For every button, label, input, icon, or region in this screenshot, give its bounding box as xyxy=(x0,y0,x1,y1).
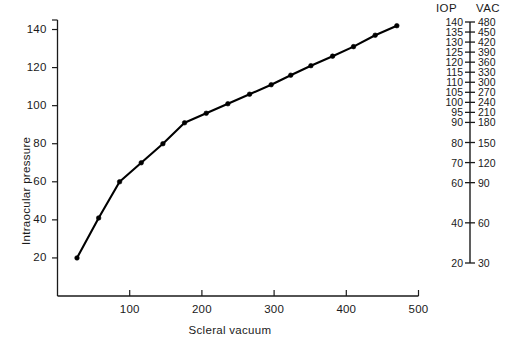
nomogram-iop-value: 40 xyxy=(430,217,463,229)
data-point-marker xyxy=(269,82,274,87)
data-point-marker xyxy=(395,23,400,28)
nomogram-vac-value: 150 xyxy=(478,137,512,149)
nomogram-iop-value: 60 xyxy=(430,177,463,189)
nomogram-iop-value: 90 xyxy=(430,116,463,128)
nomogram-header-iop: IOP xyxy=(436,2,457,14)
x-tick-label: 400 xyxy=(326,303,366,315)
data-point-marker xyxy=(96,216,101,221)
data-point-marker xyxy=(161,141,166,146)
nomogram-row: 4060 xyxy=(430,217,525,229)
plot-area: 20406080100120140 100200300400500 Intrao… xyxy=(0,0,430,347)
x-tick-label: 100 xyxy=(110,303,150,315)
y-tick-label: 20 xyxy=(13,251,47,263)
data-point-marker xyxy=(351,44,356,49)
data-point-marker xyxy=(139,160,144,165)
x-tick-label: 200 xyxy=(182,303,222,315)
data-line xyxy=(77,26,397,258)
data-point-marker xyxy=(330,54,335,59)
data-point-marker xyxy=(75,256,80,261)
data-point-marker xyxy=(204,111,209,116)
nomogram-vac-value: 180 xyxy=(478,116,512,128)
axes-layer xyxy=(52,20,419,296)
nomogram-row: 6090 xyxy=(430,177,525,189)
data-point-marker xyxy=(117,179,122,184)
data-point-marker xyxy=(247,92,252,97)
nomogram-row: 80150 xyxy=(430,137,525,149)
data-point-marker xyxy=(373,33,378,38)
data-point-marker xyxy=(182,120,187,125)
nomogram-vac-value: 60 xyxy=(478,217,512,229)
nomogram-row: 70120 xyxy=(430,157,525,169)
figure-root: 20406080100120140 100200300400500 Intrao… xyxy=(0,0,525,347)
nomogram-header-vac: VAC xyxy=(476,2,500,14)
nomogram-row: 2030 xyxy=(430,257,525,269)
data-point-marker xyxy=(288,73,293,78)
y-tick-label: 140 xyxy=(13,23,47,35)
data-point-marker xyxy=(309,63,314,68)
nomogram-iop-value: 80 xyxy=(430,137,463,149)
y-tick-label: 100 xyxy=(13,99,47,111)
x-axis-title: Scleral vacuum xyxy=(150,324,310,336)
nomogram-row: 90180 xyxy=(430,116,525,128)
nomogram-iop-value: 70 xyxy=(430,157,463,169)
nomogram-vac-value: 30 xyxy=(478,257,512,269)
nomogram-scale: IOP VAC 14048013545013042012539012036011… xyxy=(430,0,525,347)
nomogram-vac-value: 120 xyxy=(478,157,512,169)
x-tick-label: 300 xyxy=(254,303,294,315)
y-axis-title: Intraocular pressure xyxy=(20,137,32,245)
y-tick-label: 120 xyxy=(13,61,47,73)
data-series-layer xyxy=(75,23,399,260)
nomogram-vac-value: 90 xyxy=(478,177,512,189)
nomogram-iop-value: 20 xyxy=(430,257,463,269)
data-point-marker xyxy=(226,101,231,106)
